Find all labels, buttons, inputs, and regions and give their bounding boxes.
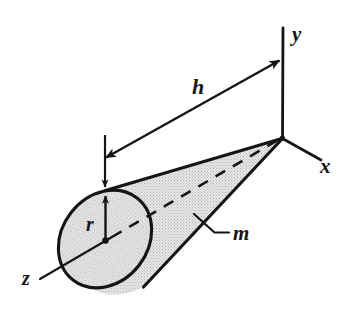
origin-node — [280, 136, 285, 141]
x-axis-label: x — [319, 154, 331, 178]
z-axis-label: z — [21, 267, 30, 289]
cone-diagram-canvas: y x z h r m — [0, 0, 354, 316]
height-label: h — [192, 74, 204, 99]
cone-diagram-figure: y x z h r m — [0, 0, 354, 316]
y-axis-label: y — [289, 22, 302, 46]
radius-label: r — [86, 213, 94, 235]
y-axis-line — [283, 28, 284, 138]
mass-label: m — [233, 221, 249, 245]
x-axis-line — [283, 139, 322, 161]
